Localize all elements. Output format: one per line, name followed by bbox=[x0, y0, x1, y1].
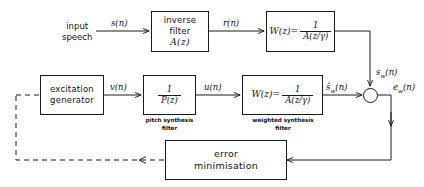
signal-label-v-n: v(n) bbox=[110, 82, 127, 92]
caption-weighted-synthesis-filter: weighted synthesis filter bbox=[240, 117, 326, 132]
weighted-synthesis-expression: W(z)= 1 A(z/γ) bbox=[252, 85, 314, 106]
line-summer-to-errormin bbox=[378, 95, 391, 160]
block-excitation-generator[interactable]: excitation generator bbox=[40, 75, 104, 115]
caption-weighted-line-2: filter bbox=[275, 125, 290, 131]
weighting-filter-top-numerator: 1 bbox=[310, 21, 321, 31]
pitch-synthesis-numerator: 1 bbox=[164, 85, 175, 95]
block-diagram-canvas: inverse filter A(z) W(z)= 1 A(z/γ) excit… bbox=[0, 0, 424, 187]
weighting-filter-top-expression: W(z)= 1 A(z/γ) bbox=[270, 21, 332, 42]
inverse-filter-transfer-function: A(z) bbox=[170, 37, 189, 48]
weighted-synthesis-lhs: W(z)= bbox=[252, 89, 281, 100]
signal-label-s-hat-w-n: ŝw(n) bbox=[326, 82, 347, 94]
weighted-synthesis-denominator: A(z/γ) bbox=[282, 95, 313, 106]
excitation-generator-line-2: generator bbox=[50, 95, 94, 106]
caption-pitch-line-2: filter bbox=[162, 125, 177, 131]
inverse-filter-line-1: inverse bbox=[164, 15, 197, 26]
caption-pitch-line-1: pitch synthesis bbox=[146, 117, 194, 123]
block-weighted-synthesis-filter[interactable]: W(z)= 1 A(z/γ) bbox=[242, 75, 323, 115]
block-error-minimisation[interactable]: error minimisation bbox=[165, 140, 287, 180]
pitch-synthesis-denominator: P(z) bbox=[158, 95, 181, 106]
block-pitch-synthesis-filter[interactable]: 1 P(z) bbox=[143, 75, 196, 115]
line-weighting-to-summer bbox=[335, 31, 370, 86]
signal-label-r-n: r(n) bbox=[223, 18, 239, 28]
caption-pitch-synthesis-filter: pitch synthesis filter bbox=[133, 117, 206, 132]
block-weighting-filter-top[interactable]: W(z)= 1 A(z/γ) bbox=[266, 11, 335, 52]
signal-label-u-n: u(n) bbox=[204, 82, 222, 92]
weighting-filter-top-denominator: A(z/γ) bbox=[300, 31, 331, 42]
caption-weighted-line-1: weighted synthesis bbox=[252, 117, 313, 123]
signal-label-ew-n: ew(n) bbox=[393, 82, 415, 94]
signal-label-ew-tail: (n) bbox=[403, 82, 415, 92]
summing-junction[interactable] bbox=[363, 88, 378, 103]
weighting-filter-top-fraction: 1 A(z/γ) bbox=[300, 21, 331, 42]
weighting-filter-top-lhs: W(z)= bbox=[270, 26, 299, 37]
error-minimisation-line-2: minimisation bbox=[194, 160, 258, 172]
pitch-synthesis-fraction: 1 P(z) bbox=[158, 85, 181, 106]
label-input-speech-line-2: speech bbox=[62, 32, 92, 42]
signal-label-sw-tail: (n) bbox=[385, 67, 397, 77]
inverse-filter-line-2: filter bbox=[170, 26, 191, 37]
block-inverse-filter[interactable]: inverse filter A(z) bbox=[151, 11, 209, 52]
label-input-speech: input speech bbox=[62, 21, 92, 43]
signal-label-s-n: s(n) bbox=[111, 18, 127, 28]
excitation-generator-line-1: excitation bbox=[50, 84, 94, 95]
signal-label-sw-n: sw(n) bbox=[376, 67, 397, 79]
signal-label-s-hat-w-tail: (n) bbox=[335, 82, 347, 92]
weighted-synthesis-numerator: 1 bbox=[292, 85, 303, 95]
pitch-synthesis-expression: 1 P(z) bbox=[158, 85, 181, 106]
label-input-speech-line-1: input bbox=[66, 21, 88, 31]
weighted-synthesis-fraction: 1 A(z/γ) bbox=[282, 85, 313, 106]
error-minimisation-line-1: error bbox=[214, 148, 238, 160]
